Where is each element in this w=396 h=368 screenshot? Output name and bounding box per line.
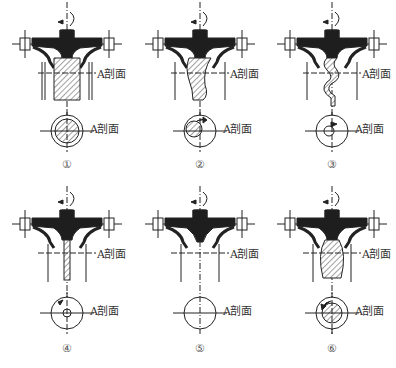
panel-5: A剖面 A剖面 ⑤ (133, 184, 265, 368)
impeller-diagram-5 (133, 184, 265, 368)
section-label-top: A剖面 (230, 245, 258, 261)
panel-number: ① (57, 158, 77, 171)
flow-core (42, 58, 92, 100)
impeller-diagram-3 (265, 0, 396, 184)
section-label-top: A剖面 (230, 65, 258, 81)
section-label-top: A剖面 (362, 65, 390, 81)
panel-6: A剖面 A剖面 ⑥ (265, 184, 396, 368)
panel-number: ④ (57, 342, 77, 355)
section-label-view: A剖面 (355, 302, 383, 318)
impeller-diagram-4 (0, 184, 132, 368)
section-label-view: A剖面 (355, 120, 383, 136)
panel-number: ⑤ (190, 342, 210, 355)
panel-4: A剖面 A剖面 ④ (0, 184, 132, 368)
section-label-top: A剖面 (97, 245, 125, 261)
impeller-diagram-1 (0, 0, 132, 184)
section-label-view: A剖面 (90, 302, 118, 318)
section-label-view: A剖面 (223, 120, 251, 136)
section-label-top: A剖面 (97, 65, 125, 81)
panel-number: ⑥ (322, 342, 342, 355)
section-label-top: A剖面 (362, 245, 390, 261)
panel-3: A剖面 A剖面 ③ (265, 0, 396, 184)
section-view (40, 110, 94, 152)
impeller-diagram-6 (265, 184, 396, 368)
impeller-diagram-2 (133, 0, 265, 184)
section-label-view: A剖面 (223, 302, 251, 318)
section-label-view: A剖面 (90, 120, 118, 136)
panel-number: ② (190, 158, 210, 171)
panel-2: A剖面 A剖面 ② (133, 0, 265, 184)
panel-number: ③ (322, 158, 342, 171)
panel-1: A剖面 A剖面 ① (0, 0, 132, 184)
